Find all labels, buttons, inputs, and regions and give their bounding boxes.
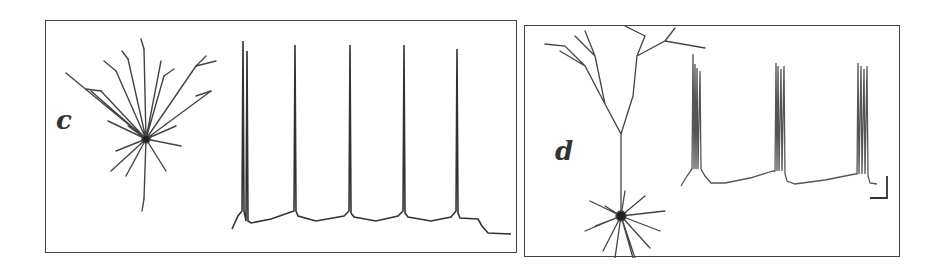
pyramidal-neuron-icon <box>545 26 705 258</box>
scale-bar-icon <box>870 176 887 198</box>
panel-c: c <box>45 20 517 253</box>
bursting-trace <box>681 54 877 186</box>
stellate-neuron-icon <box>66 39 216 211</box>
panel-d-drawing <box>525 26 901 258</box>
regular-spiking-trace <box>232 41 511 234</box>
panel-d: d <box>524 25 900 257</box>
panel-c-drawing <box>46 21 518 254</box>
